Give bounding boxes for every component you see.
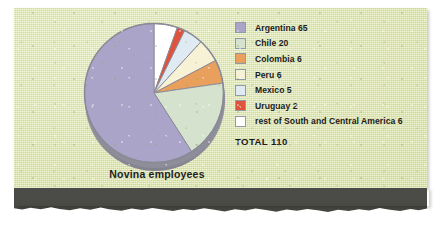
chart-paper-panel: Novina employees Argentina 65 Chile 20 C… xyxy=(14,8,427,188)
legend-item-colombia[interactable]: Colombia 6 xyxy=(235,51,427,67)
legend-item-rest-of-south-and-central-america[interactable]: rest of South and Central America 6 xyxy=(235,114,427,130)
legend-swatch-mexico xyxy=(235,85,246,96)
legend-swatch-rest-of-south-and-central-america xyxy=(235,116,246,127)
legend-label-chile: Chile 20 xyxy=(255,38,288,48)
legend-item-peru[interactable]: Peru 6 xyxy=(235,67,427,83)
legend-swatch-uruguay xyxy=(235,100,246,111)
legend-swatch-chile xyxy=(235,38,246,49)
legend-swatch-colombia xyxy=(235,53,246,64)
legend-swatch-peru xyxy=(235,69,246,80)
legend-item-uruguay[interactable]: Uruguay 2 xyxy=(235,98,427,114)
legend-swatch-argentina xyxy=(235,22,246,33)
pie-chart-title: Novina employees xyxy=(82,168,232,180)
legend-label-colombia: Colombia 6 xyxy=(255,54,302,64)
legend-item-argentina[interactable]: Argentina 65 xyxy=(235,20,427,36)
legend-label-uruguay: Uruguay 2 xyxy=(255,101,297,111)
chart-legend: Argentina 65 Chile 20 Colombia 6 Peru 6 … xyxy=(235,20,427,147)
legend-label-peru: Peru 6 xyxy=(255,70,282,80)
legend-total: TOTAL 110 xyxy=(235,136,427,147)
legend-item-chile[interactable]: Chile 20 xyxy=(235,36,427,52)
legend-label-argentina: Argentina 65 xyxy=(255,23,308,33)
legend-label-rest-of-south-and-central-america: rest of South and Central America 6 xyxy=(255,116,403,126)
legend-label-mexico: Mexico 5 xyxy=(255,85,292,95)
pie-chart-svg xyxy=(82,21,228,173)
pie-chart xyxy=(82,21,228,173)
legend-item-mexico[interactable]: Mexico 5 xyxy=(235,82,427,98)
